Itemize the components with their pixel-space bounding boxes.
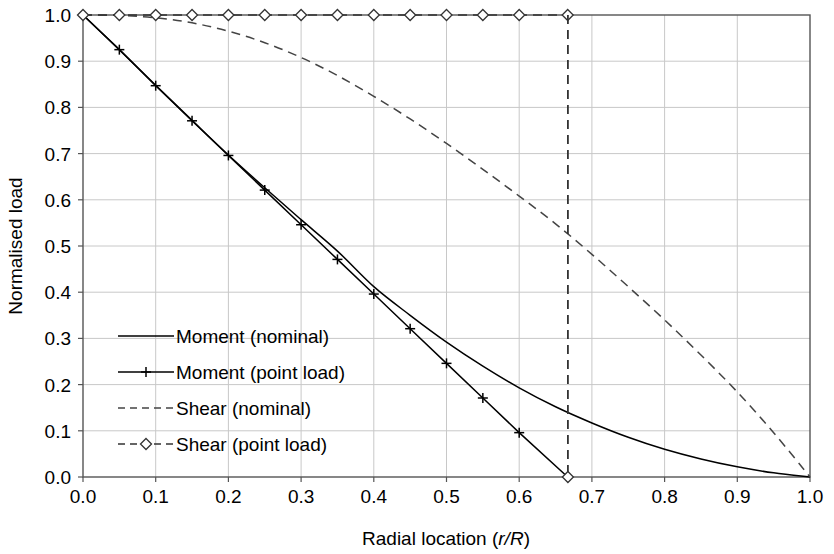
y-tick-label: 0.1 [45,421,71,442]
legend-label: Moment (point load) [176,362,345,383]
y-tick-label: 1.0 [45,5,71,26]
y-tick-label: 0.5 [45,236,71,257]
svg-text:Normalised load: Normalised load [5,177,26,314]
y-tick-label: 0.8 [45,97,71,118]
svg-text:Radial location (r/R): Radial location (r/R) [362,528,530,549]
x-title-italic: r/R [498,528,524,549]
x-title-main: Radial location ( [362,528,499,549]
y-tick-label: 0.3 [45,328,71,349]
x-tick-label: 0.7 [579,486,605,507]
y-tick-label: 0.2 [45,375,71,396]
x-tick-label: 1.0 [797,486,823,507]
y-axis-title: Normalised load [5,177,26,314]
x-tick-label: 0.8 [651,486,677,507]
chart-background [0,0,834,554]
x-tick-label: 0.1 [142,486,168,507]
y-tick-label: 0.0 [45,467,71,488]
legend-label: Shear (nominal) [176,398,311,419]
x-tick-label: 0.3 [288,486,314,507]
x-tick-label: 0.4 [361,486,388,507]
y-tick-label: 0.4 [45,282,72,303]
x-tick-label: 0.2 [215,486,241,507]
y-tick-label: 0.6 [45,190,71,211]
legend-label: Shear (point load) [176,434,327,455]
y-tick-label: 0.7 [45,144,71,165]
x-tick-label: 0.6 [506,486,532,507]
x-title-tail: ) [524,528,530,549]
x-axis-title: Radial location (r/R) [362,528,530,549]
line-chart: 0.00.10.20.30.40.50.60.70.80.91.0 0.00.1… [0,0,834,554]
chart-figure: 0.00.10.20.30.40.50.60.70.80.91.0 0.00.1… [0,0,834,554]
x-tick-label: 0.5 [433,486,459,507]
y-tick-label: 0.9 [45,51,71,72]
x-tick-label: 0.0 [70,486,96,507]
x-tick-label: 0.9 [724,486,750,507]
legend-label: Moment (nominal) [176,326,329,347]
